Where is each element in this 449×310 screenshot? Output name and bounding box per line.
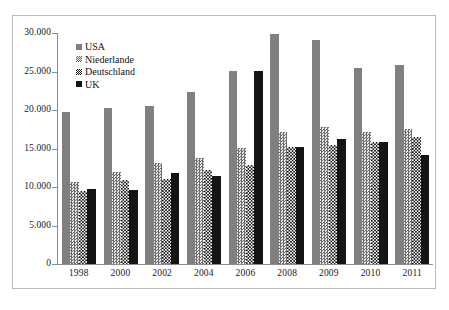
top-title-strip bbox=[120, 2, 330, 9]
bar-uk-2002[interactable] bbox=[171, 173, 180, 264]
x-axis-labels: 199820002002200420062008200920102011 bbox=[58, 268, 433, 278]
bar-group bbox=[225, 33, 267, 264]
bar-group bbox=[183, 33, 225, 264]
legend-item-usa[interactable]: USA bbox=[76, 41, 135, 52]
bar-nl-2004[interactable] bbox=[195, 158, 204, 264]
bar-de-2010[interactable] bbox=[371, 142, 380, 264]
y-tick-mark bbox=[52, 187, 57, 188]
y-tick-mark bbox=[52, 226, 57, 227]
y-tick-mark bbox=[52, 72, 57, 73]
legend-item-de[interactable]: Deutschland bbox=[76, 66, 135, 77]
y-tick-label: 15.000 bbox=[13, 144, 51, 153]
bar-nl-2006[interactable] bbox=[237, 148, 246, 264]
bar-de-2004[interactable] bbox=[204, 170, 213, 264]
legend-swatch-de-icon bbox=[76, 69, 82, 75]
bar-de-2000[interactable] bbox=[121, 180, 130, 264]
bar-nl-2009[interactable] bbox=[320, 127, 329, 264]
bar-uk-1998[interactable] bbox=[87, 189, 96, 264]
x-tick-label: 2009 bbox=[308, 268, 350, 278]
bar-group bbox=[141, 33, 183, 264]
bar-usa-2011[interactable] bbox=[395, 65, 404, 264]
x-tick-label: 1998 bbox=[58, 268, 100, 278]
x-tick-label: 2010 bbox=[350, 268, 392, 278]
x-tick-label: 2011 bbox=[391, 268, 433, 278]
legend-label: Deutschland bbox=[85, 66, 135, 77]
bar-uk-2004[interactable] bbox=[212, 176, 221, 264]
chart-legend: USANiederlandeDeutschlandUK bbox=[76, 41, 135, 90]
bar-usa-2002[interactable] bbox=[145, 106, 154, 264]
y-tick-mark bbox=[52, 33, 57, 34]
bar-uk-2009[interactable] bbox=[337, 139, 346, 264]
bar-de-2011[interactable] bbox=[412, 137, 421, 264]
legend-swatch-uk-icon bbox=[76, 81, 82, 87]
legend-label: Niederlande bbox=[85, 54, 134, 65]
y-axis-labels: 30.00025.00020.00015.00010.0005.0000 bbox=[13, 16, 51, 290]
bar-nl-2008[interactable] bbox=[279, 132, 288, 264]
bar-de-1998[interactable] bbox=[79, 191, 88, 264]
bar-nl-2010[interactable] bbox=[362, 132, 371, 264]
bar-group bbox=[266, 33, 308, 264]
bar-usa-2008[interactable] bbox=[270, 34, 279, 264]
x-tick-label: 2006 bbox=[225, 268, 267, 278]
x-tick-label: 2008 bbox=[266, 268, 308, 278]
bar-usa-2006[interactable] bbox=[229, 71, 238, 264]
x-axis-line bbox=[57, 264, 433, 265]
y-tick-label: 0 bbox=[13, 259, 51, 268]
bar-usa-2000[interactable] bbox=[104, 108, 113, 264]
y-tick-label: 5.000 bbox=[13, 221, 51, 230]
bar-group bbox=[391, 33, 433, 264]
x-tick-label: 2004 bbox=[183, 268, 225, 278]
bar-nl-2000[interactable] bbox=[112, 172, 121, 264]
figure-caption bbox=[12, 295, 432, 308]
x-tick-label: 2002 bbox=[141, 268, 183, 278]
legend-item-nl[interactable]: Niederlande bbox=[76, 54, 135, 65]
bar-nl-2002[interactable] bbox=[154, 163, 163, 264]
bar-uk-2010[interactable] bbox=[379, 142, 388, 264]
bar-usa-2009[interactable] bbox=[312, 40, 321, 264]
legend-item-uk[interactable]: UK bbox=[76, 79, 135, 90]
bar-de-2008[interactable] bbox=[287, 147, 296, 264]
bar-uk-2000[interactable] bbox=[129, 190, 138, 264]
bar-de-2009[interactable] bbox=[329, 145, 338, 264]
bar-uk-2008[interactable] bbox=[296, 147, 305, 264]
chart-frame: 30.00025.00020.00015.00010.0005.0000 199… bbox=[12, 15, 436, 289]
legend-label: USA bbox=[85, 41, 105, 52]
legend-swatch-usa-icon bbox=[76, 44, 82, 50]
y-tick-label: 20.000 bbox=[13, 105, 51, 114]
bar-uk-2011[interactable] bbox=[421, 155, 430, 264]
y-tick-label: 10.000 bbox=[13, 182, 51, 191]
y-tick-label: 30.000 bbox=[13, 28, 51, 37]
bar-nl-2011[interactable] bbox=[404, 129, 413, 264]
bar-uk-2006[interactable] bbox=[254, 71, 263, 264]
bar-group bbox=[350, 33, 392, 264]
bar-usa-2004[interactable] bbox=[187, 92, 196, 264]
bar-de-2006[interactable] bbox=[246, 165, 255, 264]
bar-usa-2010[interactable] bbox=[354, 68, 363, 264]
y-tick-mark bbox=[52, 110, 57, 111]
legend-label: UK bbox=[85, 79, 99, 90]
bar-nl-1998[interactable] bbox=[70, 182, 79, 264]
y-tick-label: 25.000 bbox=[13, 67, 51, 76]
legend-swatch-nl-icon bbox=[76, 56, 82, 62]
y-tick-mark bbox=[52, 264, 57, 265]
y-tick-mark bbox=[52, 149, 57, 150]
bar-group bbox=[308, 33, 350, 264]
bar-usa-1998[interactable] bbox=[62, 112, 71, 264]
x-tick-label: 2000 bbox=[100, 268, 142, 278]
bar-de-2002[interactable] bbox=[162, 179, 171, 264]
